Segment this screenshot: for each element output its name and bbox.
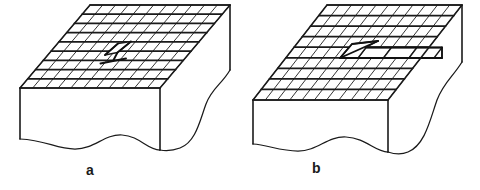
figure-root: a b	[0, 0, 480, 190]
panel-b-caption: b	[312, 161, 321, 175]
panel-b-illustration	[0, 0, 480, 190]
panel-a-caption: a	[86, 163, 94, 177]
